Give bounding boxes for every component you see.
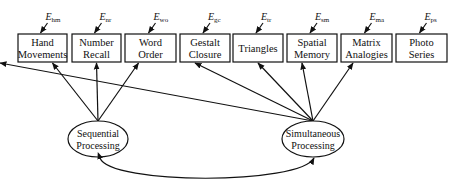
indicator-label: Hand <box>31 37 54 48</box>
factor-covariance-arrow <box>100 158 314 178</box>
factor-ellipse <box>282 121 344 157</box>
error-arrow <box>203 23 210 33</box>
error-arrow <box>149 23 156 33</box>
loading-arrow <box>195 63 313 121</box>
factor-label: Processing <box>291 140 334 151</box>
indicator-label: Gestalt <box>190 37 220 48</box>
factor-seq: SequentialProcessing <box>68 121 128 157</box>
error-arrow <box>41 23 48 33</box>
error-arrow <box>310 23 317 33</box>
error-arrow <box>256 23 263 33</box>
error-term-label: Egc <box>207 11 221 24</box>
indicator-gc: GestaltClosureEgc <box>180 11 230 62</box>
indicator-label: Recall <box>83 49 110 60</box>
indicator-ps: PhotoSeriesEps <box>396 11 447 62</box>
indicator-label: Word <box>139 37 163 48</box>
indicator-label: Triangles <box>238 43 277 54</box>
loading-arrow <box>53 63 99 121</box>
latent-factors: SequentialProcessingSimultaneousProcessi… <box>68 121 344 157</box>
indicator-label: Closure <box>189 49 222 60</box>
loading-arrow <box>313 63 353 121</box>
error-term-label: Etr <box>260 11 272 24</box>
factor-loading-arrows <box>0 63 353 121</box>
factor-label: Simultaneous <box>286 128 341 139</box>
indicator-wo: WordOrderEwo <box>125 11 176 62</box>
error-arrow <box>365 23 372 33</box>
error-term-label: Ewo <box>153 11 169 24</box>
factor-label: Sequential <box>77 128 119 139</box>
error-arrow <box>95 23 102 33</box>
error-arrow <box>420 23 427 33</box>
error-term-label: Enr <box>99 11 113 24</box>
indicator-label: Spatial <box>297 37 326 48</box>
error-term-label: Eps <box>424 11 438 24</box>
indicator-nr: NumberRecallEnr <box>72 11 121 62</box>
error-term-label: Esm <box>314 11 330 24</box>
error-term-label: Ehm <box>45 11 62 24</box>
indicator-ma: MatrixAnalogiesEma <box>341 11 392 62</box>
error-term-label: Ema <box>369 11 386 24</box>
path-diagram: HandMovementsEhmNumberRecallEnrWordOrder… <box>0 0 465 187</box>
loading-arrow <box>97 63 99 121</box>
indicator-label: Number <box>79 37 114 48</box>
factor-label: Processing <box>76 140 119 151</box>
loading-arrow <box>302 63 313 121</box>
indicator-sm: SpatialMemoryEsm <box>287 11 337 62</box>
indicator-label: Matrix <box>352 37 381 48</box>
factor-ellipse <box>68 121 128 157</box>
indicator-label: Analogies <box>345 49 388 60</box>
indicator-tr: TrianglesEtr <box>233 11 283 62</box>
indicator-hm: HandMovementsEhm <box>18 11 68 62</box>
indicator-label: Photo <box>409 37 434 48</box>
loading-arrow <box>98 63 139 121</box>
indicator-label: Order <box>138 49 163 60</box>
indicator-label: Movements <box>18 49 68 60</box>
indicator-label: Series <box>409 49 435 60</box>
indicator-label: Memory <box>294 49 331 60</box>
indicator-boxes: HandMovementsEhmNumberRecallEnrWordOrder… <box>18 11 447 62</box>
factor-sim: SimultaneousProcessing <box>282 121 344 157</box>
